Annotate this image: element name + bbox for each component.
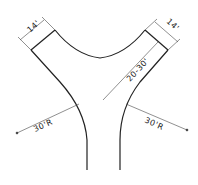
left-width-label: 14': [25, 19, 41, 35]
length-label: 20-30': [125, 56, 151, 83]
left-radius-label: 30'R: [32, 117, 54, 133]
inner-curve: [55, 30, 145, 58]
left-outer-edge: [31, 50, 87, 170]
right-radius-label: 30'R: [143, 116, 165, 132]
right-branch-end: [145, 30, 168, 50]
left-branch-end: [31, 30, 55, 50]
junction-diagram: 14' 14' 20-30' 30'R 30'R: [0, 0, 198, 185]
right-width-label: 14': [165, 17, 181, 33]
